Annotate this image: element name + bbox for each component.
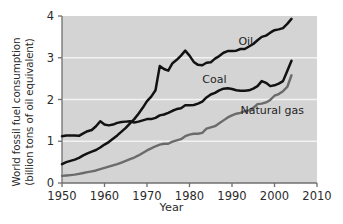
series-label-natural-gas: Natural gas	[241, 104, 305, 117]
series-label-coal: Coal	[202, 73, 226, 86]
chart-figure: World fossil fuel consumption (billion t…	[0, 0, 343, 224]
series-label-oil: Oil	[238, 35, 253, 48]
x-axis-title: Year	[0, 201, 343, 214]
